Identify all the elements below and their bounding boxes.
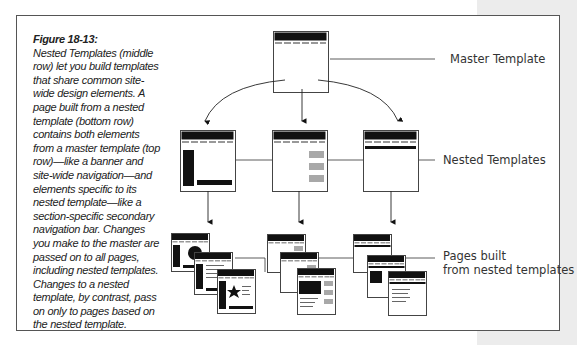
- master-template-thumbnail: [274, 32, 329, 93]
- label-master-template: Master Template: [450, 52, 545, 66]
- nested-template-right: [364, 131, 419, 192]
- pages-group-middle: [268, 235, 336, 315]
- label-pages-line1: Pages built: [443, 249, 506, 263]
- pages-group-right: [354, 235, 427, 316]
- nested-template-left: [181, 131, 236, 192]
- nested-template-middle: [273, 131, 328, 192]
- label-nested-templates: Nested Templates: [443, 153, 546, 167]
- arrow-to-right-nested: [318, 80, 398, 121]
- label-pages-line2: from nested templates: [443, 263, 574, 277]
- pages-group-left: [172, 234, 256, 314]
